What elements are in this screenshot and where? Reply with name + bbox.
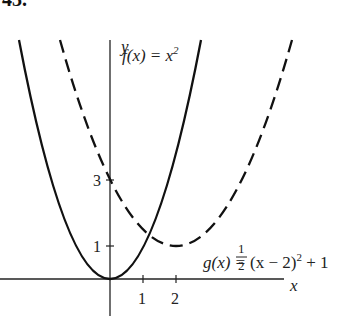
- y-tick-label-1: 1: [93, 238, 101, 255]
- x-tick-label-1: 1: [138, 290, 146, 307]
- curve-g: [60, 40, 292, 246]
- g-frac-num: 1: [238, 241, 245, 256]
- f-label: f(x) = x2: [122, 44, 179, 65]
- g-frac-den: 2: [238, 258, 245, 273]
- graph: y x 1 2 1 3 f(x) = x2 g(x) = 1 2 (x − 2)…: [0, 0, 359, 316]
- x-tick-label-2: 2: [171, 290, 179, 307]
- y-tick-label-3: 3: [93, 172, 101, 189]
- x-axis-label: x: [289, 276, 298, 295]
- g-label-rest: (x − 2)2 + 1: [250, 251, 329, 272]
